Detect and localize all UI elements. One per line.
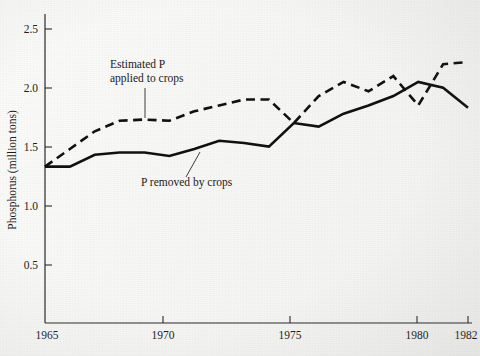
p-removed-leader-line xyxy=(186,152,200,177)
x-axis-ticks xyxy=(163,316,468,323)
estimated-p-annotation-line2: applied to crops xyxy=(110,72,184,85)
x-tick-label-1982: 1982 xyxy=(455,329,478,341)
y-tick-label-1.0: 1.0 xyxy=(24,200,39,212)
y-tick-label-2.0: 2.0 xyxy=(24,82,39,94)
chart-figure: 2.5 2.0 1.5 1.0 0.5 1965 1970 1975 1980 … xyxy=(0,0,480,356)
p-removed-annotation: P removed by crops xyxy=(141,152,233,189)
estimated-p-annotation: Estimated P applied to crops xyxy=(110,58,184,118)
y-axis-ticks xyxy=(45,29,52,265)
y-tick-label-0.5: 0.5 xyxy=(24,259,39,271)
phosphorus-line-chart: 2.5 2.0 1.5 1.0 0.5 1965 1970 1975 1980 … xyxy=(0,0,480,356)
x-tick-label-1965: 1965 xyxy=(36,329,59,341)
estimated-p-annotation-line1: Estimated P xyxy=(110,58,165,70)
x-tick-label-1975: 1975 xyxy=(279,329,302,341)
x-tick-label-1970: 1970 xyxy=(152,329,175,341)
p-removed-annotation-line1: P removed by crops xyxy=(141,176,233,189)
series-line-estimated-p-applied xyxy=(45,62,468,167)
x-tick-label-1980: 1980 xyxy=(406,329,429,341)
y-tick-label-1.5: 1.5 xyxy=(24,141,39,153)
y-axis-title: Phosphorus (million tons) xyxy=(6,110,19,230)
y-tick-label-2.5: 2.5 xyxy=(24,23,39,35)
